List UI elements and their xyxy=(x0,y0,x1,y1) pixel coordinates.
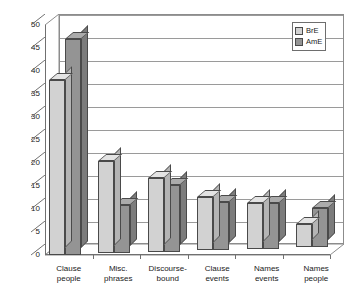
bar-bre-clause-people xyxy=(49,80,65,255)
legend-item-bre: BrE xyxy=(295,26,322,36)
x-axis-labels: ClausepeopleMisc.phrasesDiscourse-boundC… xyxy=(0,262,355,296)
legend-label-bre: BrE xyxy=(306,27,319,35)
x-tick xyxy=(283,255,284,259)
bar-bre-names-events xyxy=(247,203,263,249)
y-tick-connector xyxy=(31,175,46,187)
x-label-line: Names xyxy=(284,264,348,274)
y-tick-connector xyxy=(31,221,46,233)
bar-face xyxy=(296,224,312,247)
legend-swatch-ame-icon xyxy=(295,38,303,46)
y-tick-connector xyxy=(31,106,46,118)
x-tick xyxy=(93,255,94,259)
bar-chart: 05101520253035404550 ClausepeopleMisc.ph… xyxy=(0,0,355,299)
bar-bre-discourse-bound xyxy=(148,178,164,252)
bar-face xyxy=(197,197,213,250)
bar-side xyxy=(81,25,88,248)
y-tick-connector xyxy=(31,60,46,72)
legend-item-ame: AmE xyxy=(295,37,322,47)
x-label-line: people xyxy=(284,274,348,284)
bar-face xyxy=(247,203,263,249)
x-tick xyxy=(188,255,189,259)
y-tick-connector xyxy=(31,83,46,95)
x-tick xyxy=(330,255,331,259)
bar-face xyxy=(49,80,65,255)
legend-swatch-bre-icon xyxy=(295,27,303,35)
x-tick xyxy=(140,255,141,259)
bar-side xyxy=(65,66,72,248)
bar-bre-names-people xyxy=(296,224,312,247)
x-label-names-people: Namespeople xyxy=(284,264,348,284)
y-tick-connector xyxy=(31,37,46,49)
bar-face xyxy=(148,178,164,252)
y-tick-connector xyxy=(31,152,46,164)
y-tick-connector xyxy=(31,244,46,256)
y-tick-connector xyxy=(31,14,46,26)
bar-bre-clause-events xyxy=(197,197,213,250)
bar-side xyxy=(114,147,121,246)
bar-bre-misc-phrases xyxy=(98,161,114,253)
y-tick-connector xyxy=(31,198,46,210)
x-tick xyxy=(235,255,236,259)
chart-legend: BrE AmE xyxy=(292,22,326,51)
bar-face xyxy=(98,161,114,253)
y-tick-connector xyxy=(31,129,46,141)
legend-label-ame: AmE xyxy=(306,38,322,46)
